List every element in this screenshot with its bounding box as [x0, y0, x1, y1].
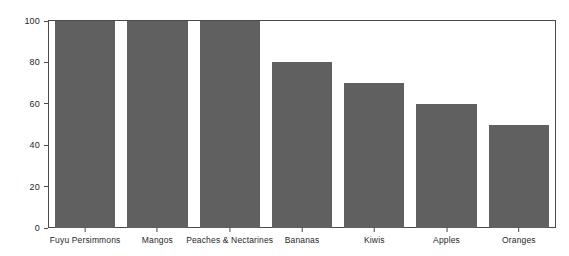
x-axis-tick-label: Mangos	[142, 235, 173, 245]
y-axis-tick-label: 100	[24, 15, 44, 27]
x-axis-tick: Apples	[433, 228, 460, 245]
y-axis-tick: 20	[30, 181, 48, 193]
x-axis-tick: Fuyu Persimmons	[50, 228, 121, 245]
x-axis-tick-mark	[301, 228, 302, 232]
bar	[344, 83, 404, 228]
bar	[55, 21, 115, 228]
x-axis-tick-label: Kiwis	[364, 235, 385, 245]
x-axis-tick: Peaches & Nectarines	[186, 228, 273, 245]
x-axis-tick-label: Fuyu Persimmons	[50, 235, 121, 245]
x-axis-tick-mark	[157, 228, 158, 232]
y-axis-tick-label: 20	[30, 181, 44, 193]
bar	[489, 125, 549, 229]
x-axis-tick: Kiwis	[364, 228, 385, 245]
x-axis-tick-mark	[85, 228, 86, 232]
bar	[200, 21, 260, 228]
bar	[416, 104, 476, 228]
y-axis-tick: 40	[30, 139, 48, 151]
y-axis-tick-label: 40	[30, 139, 44, 151]
x-axis-tick-label: Peaches & Nectarines	[186, 235, 273, 245]
y-axis-tick-mark	[44, 145, 48, 146]
y-axis-tick: 100	[24, 15, 48, 27]
y-axis-tick: 60	[30, 98, 48, 110]
x-axis-tick-label: Oranges	[502, 235, 536, 245]
x-axis: Fuyu PersimmonsMangosPeaches & Nectarine…	[49, 228, 555, 256]
x-axis-tick-mark	[229, 228, 230, 232]
y-axis-tick-label: 60	[30, 98, 44, 110]
x-axis-tick: Oranges	[502, 228, 536, 245]
y-axis-tick-mark	[44, 186, 48, 187]
y-axis-tick-mark	[44, 228, 48, 229]
y-axis-tick-mark	[44, 62, 48, 63]
y-axis-tick: 80	[30, 56, 48, 68]
x-axis-tick-label: Apples	[433, 235, 460, 245]
y-axis-tick-label: 0	[35, 222, 44, 234]
x-axis-tick: Bananas	[285, 228, 320, 245]
x-axis-tick: Mangos	[142, 228, 173, 245]
x-axis-tick-mark	[374, 228, 375, 232]
y-axis-tick-mark	[44, 21, 48, 22]
x-axis-tick-mark	[446, 228, 447, 232]
y-axis: 020406080100	[0, 0, 48, 256]
bar	[127, 21, 187, 228]
bar-chart: 020406080100 Fuyu PersimmonsMangosPeache…	[0, 0, 569, 256]
y-axis-tick: 0	[35, 222, 48, 234]
bars-layer	[49, 21, 555, 228]
x-axis-tick-label: Bananas	[285, 235, 320, 245]
y-axis-tick-mark	[44, 103, 48, 104]
x-axis-tick-mark	[518, 228, 519, 232]
bar	[272, 62, 332, 228]
y-axis-tick-label: 80	[30, 56, 44, 68]
